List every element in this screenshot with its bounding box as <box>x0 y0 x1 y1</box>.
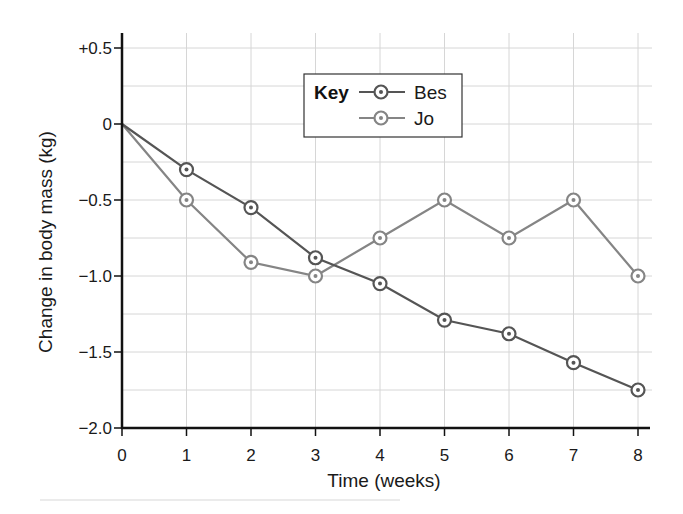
data-point-marker-dot <box>636 388 640 392</box>
legend-marker-dot <box>379 116 383 120</box>
y-tick-label: −1.0 <box>78 267 112 286</box>
x-tick-label: 3 <box>311 446 320 465</box>
data-series <box>122 124 645 397</box>
y-axis-title: Change in body mass (kg) <box>35 131 56 353</box>
y-tick-label: −2.0 <box>78 419 112 438</box>
data-point-marker-dot <box>378 282 382 286</box>
data-point-marker-dot <box>572 198 576 202</box>
line-chart: +0.50−0.5−1.0−1.5−2.0 012345678 Time (we… <box>0 0 683 514</box>
data-point-marker-dot <box>378 236 382 240</box>
y-tick-label: −1.5 <box>78 343 112 362</box>
x-tick-label: 5 <box>440 446 449 465</box>
data-point-marker-dot <box>185 168 189 172</box>
data-point-marker-dot <box>249 206 253 210</box>
data-point-marker-dot <box>249 260 253 264</box>
y-tick-label: −0.5 <box>78 191 112 210</box>
legend-label: Bes <box>414 82 447 103</box>
y-ticks: +0.50−0.5−1.0−1.5−2.0 <box>78 39 122 438</box>
data-point-marker-dot <box>636 274 640 278</box>
x-tick-label: 6 <box>504 446 513 465</box>
x-tick-label: 0 <box>117 446 126 465</box>
x-tick-label: 7 <box>569 446 578 465</box>
data-point-marker-dot <box>507 332 511 336</box>
data-point-marker-dot <box>314 256 318 260</box>
data-point-marker-dot <box>572 361 576 365</box>
legend-title: Key <box>314 82 349 103</box>
series-jo <box>122 124 645 283</box>
data-point-marker-dot <box>443 198 447 202</box>
data-point-marker-dot <box>185 198 189 202</box>
y-tick-label: 0 <box>103 115 112 134</box>
x-tick-label: 2 <box>246 446 255 465</box>
x-axis-title: Time (weeks) <box>327 470 440 491</box>
data-point-marker-dot <box>443 318 447 322</box>
legend-label: Jo <box>414 108 434 129</box>
x-ticks: 012345678 <box>117 428 642 465</box>
x-tick-label: 1 <box>182 446 191 465</box>
data-point-marker-dot <box>314 274 318 278</box>
legend: Key BesJo <box>304 74 462 137</box>
series-bes <box>122 124 645 397</box>
data-point-marker-dot <box>507 236 511 240</box>
x-tick-label: 4 <box>375 446 384 465</box>
legend-marker-dot <box>379 90 383 94</box>
x-tick-label: 8 <box>633 446 642 465</box>
y-tick-label: +0.5 <box>78 39 112 58</box>
